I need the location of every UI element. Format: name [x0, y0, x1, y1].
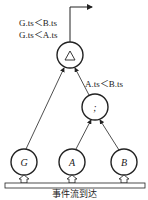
- caption: 事件流到达: [0, 187, 148, 200]
- node-a: A: [59, 149, 85, 175]
- svg-text:G: G: [20, 157, 27, 168]
- node-seq: ;: [82, 94, 108, 120]
- node-g: G: [11, 149, 37, 175]
- input-arrows: [19, 175, 129, 183]
- svg-text:A: A: [68, 157, 76, 168]
- svg-text:B: B: [121, 157, 127, 168]
- condition-a-b: A.ts＜B.ts: [85, 77, 123, 90]
- edge-b-seq: [100, 120, 119, 150]
- node-b: B: [111, 149, 137, 175]
- output-arrow: [70, 7, 92, 42]
- edge-a-seq: [76, 120, 91, 149]
- condition-g-a: G.ts＜A.ts: [19, 28, 58, 41]
- edge-g-and: [26, 68, 64, 149]
- node-and: [57, 42, 83, 68]
- svg-text:;: ;: [93, 102, 96, 113]
